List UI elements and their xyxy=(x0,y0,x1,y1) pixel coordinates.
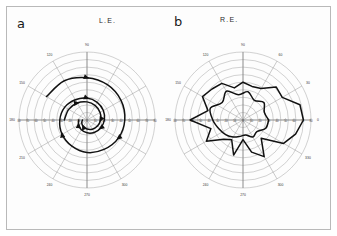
radial-tick-label: 80 xyxy=(173,119,177,123)
angle-label-left-eye-300: 300 xyxy=(122,183,128,187)
radial-tick-label: 70 xyxy=(26,119,30,123)
isopter-direction-arrow xyxy=(59,131,65,138)
left-eye-title: L.E. xyxy=(99,17,116,24)
panel-b-label: b xyxy=(174,15,182,28)
radial-tick-label: 50 xyxy=(43,119,47,123)
radial-tick-label: 40 xyxy=(119,119,123,123)
radial-tick-label: 20 xyxy=(258,119,262,123)
angle-label-right-eye-120: 120 xyxy=(203,53,209,57)
visual-field-figure: 8070605040302010010203040506070808070605… xyxy=(0,0,337,236)
angle-label-left-eye-180: 180 xyxy=(9,118,15,122)
radial-tick-label: 50 xyxy=(128,119,132,123)
angle-label-right-eye-150: 150 xyxy=(175,81,181,85)
angle-label-left-eye-90: 90 xyxy=(85,43,89,47)
right-eye-title: R.E. xyxy=(220,16,238,23)
angle-label-left-eye-150: 150 xyxy=(19,81,25,85)
angle-label-left-eye-270: 270 xyxy=(84,193,90,197)
angle-label-left-eye-240: 240 xyxy=(47,183,53,187)
angle-label-left-eye-120: 120 xyxy=(47,53,53,57)
radial-tick-label: 60 xyxy=(292,119,296,123)
radial-tick-label: 60 xyxy=(136,119,140,123)
radial-tick-label: 40 xyxy=(207,119,211,123)
angle-label-right-eye-330: 330 xyxy=(305,156,311,160)
radial-tick-label: 70 xyxy=(182,119,186,123)
radial-tick-label: 80 xyxy=(309,119,313,123)
angle-label-right-eye-180: 180 xyxy=(165,118,171,122)
radial-tick-label: 50 xyxy=(284,119,288,123)
angle-label-right-eye-300: 300 xyxy=(278,183,284,187)
arrow-glyph xyxy=(76,122,81,128)
radial-tick-label: 30 xyxy=(111,119,115,123)
isopter-direction-arrow xyxy=(76,122,81,128)
radial-tick-label: 70 xyxy=(145,119,149,123)
arrow-glyph xyxy=(59,131,65,138)
angle-label-right-eye-270: 270 xyxy=(240,193,246,197)
radial-tick-label: 20 xyxy=(224,119,228,123)
angle-label-left-eye-210: 210 xyxy=(19,156,25,160)
radial-tick-label: 60 xyxy=(34,119,38,123)
radial-tick-label: 20 xyxy=(68,119,72,123)
radial-tick-label: 40 xyxy=(275,119,279,123)
angle-label-right-eye-240: 240 xyxy=(203,183,209,187)
radial-tick-label: 80 xyxy=(153,119,157,123)
angle-label-right-eye-90: 90 xyxy=(241,43,245,47)
polar-charts-svg: 8070605040302010010203040506070808070605… xyxy=(0,0,337,236)
radial-tick-label: 50 xyxy=(199,119,203,123)
radial-tick-label: 80 xyxy=(17,119,21,123)
radial-tick-label: 10 xyxy=(233,119,237,123)
radial-tick-label: 40 xyxy=(51,119,55,123)
angle-label-right-eye-0: 0 xyxy=(317,118,319,122)
radial-tick-label: 10 xyxy=(94,119,98,123)
radial-tick-label: 10 xyxy=(250,119,254,123)
isopter-path-0 xyxy=(46,77,124,152)
angle-label-right-eye-60: 60 xyxy=(279,53,283,57)
angle-label-right-eye-30: 30 xyxy=(306,81,310,85)
panel-a-label: a xyxy=(17,17,25,30)
radial-tick-label: 30 xyxy=(216,119,220,123)
isopter-path-3 xyxy=(210,91,269,137)
